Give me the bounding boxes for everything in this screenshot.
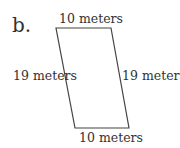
bottom-side-label: 10 meters: [79, 130, 143, 145]
right-side-label: 19 meters: [122, 68, 180, 83]
left-side-label: 19 meters: [13, 68, 77, 83]
top-side-label: 10 meters: [59, 11, 123, 26]
